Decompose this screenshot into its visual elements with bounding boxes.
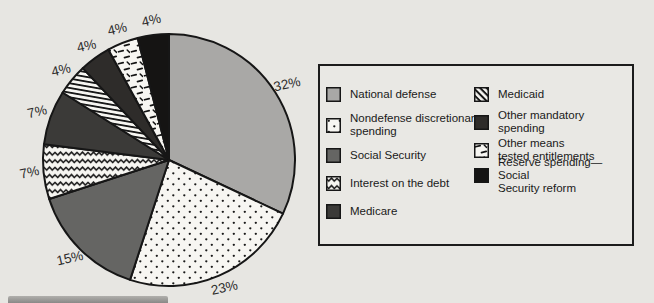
legend-label: National defense bbox=[350, 88, 436, 101]
legend-swatch bbox=[474, 115, 489, 130]
legend-label: Nondefense discretionary spending bbox=[350, 112, 480, 138]
legend-swatch bbox=[474, 143, 489, 158]
legend-item-nondefense-discretionary-spending: Nondefense discretionary spending bbox=[326, 111, 480, 139]
pie-slice-label-national-defense: 32% bbox=[272, 74, 302, 95]
pie-slice-label-medicaid: 4% bbox=[50, 60, 72, 79]
legend-swatch bbox=[326, 148, 341, 163]
figure-canvas: 32%23%15%7%7%4%4%4%4% National defenseNo… bbox=[0, 0, 654, 303]
pie-slice-label-other-mandatory-spending: 4% bbox=[75, 36, 97, 55]
legend-label: Social Security bbox=[350, 149, 426, 162]
legend-label: Other mandatory spending bbox=[498, 109, 584, 135]
legend-item-interest-on-the-debt: Interest on the debt bbox=[326, 170, 449, 198]
legend-swatch bbox=[326, 204, 341, 219]
page-artifact-bar bbox=[8, 296, 168, 303]
legend-item-social-security: Social Security bbox=[326, 141, 426, 169]
legend-swatch bbox=[326, 87, 341, 102]
pie-slice-label-interest-on-the-debt: 7% bbox=[18, 163, 40, 182]
legend-box: National defenseNondefense discretionary… bbox=[318, 64, 634, 246]
legend-item-medicare: Medicare bbox=[326, 198, 397, 226]
pie-slice-label-reserve-spending-social-security-reform: 4% bbox=[140, 11, 162, 30]
legend-label: Reserve spending—Social Security reform bbox=[498, 156, 632, 195]
pie-slice-label-nondefense-discretionary-spending: 23% bbox=[210, 277, 240, 298]
legend-swatch bbox=[474, 168, 489, 183]
legend-swatch bbox=[326, 176, 341, 191]
legend-label: Interest on the debt bbox=[350, 177, 449, 190]
legend-label: Medicaid bbox=[498, 88, 544, 101]
legend-swatch bbox=[326, 118, 341, 133]
legend-swatch bbox=[474, 87, 489, 102]
pie-slice-label-social-security: 15% bbox=[55, 248, 85, 269]
legend-item-national-defense: National defense bbox=[326, 80, 436, 108]
legend-item-reserve-spending-social-security-reform: Reserve spending—Social Security reform bbox=[474, 162, 632, 190]
pie-slice-label-other-means-tested-entitlements: 4% bbox=[106, 19, 128, 38]
legend-label: Medicare bbox=[350, 205, 397, 218]
pie-slice-label-medicare: 7% bbox=[26, 102, 48, 121]
legend-item-other-mandatory-spending: Other mandatory spending bbox=[474, 108, 584, 136]
legend-item-medicaid: Medicaid bbox=[474, 80, 544, 108]
